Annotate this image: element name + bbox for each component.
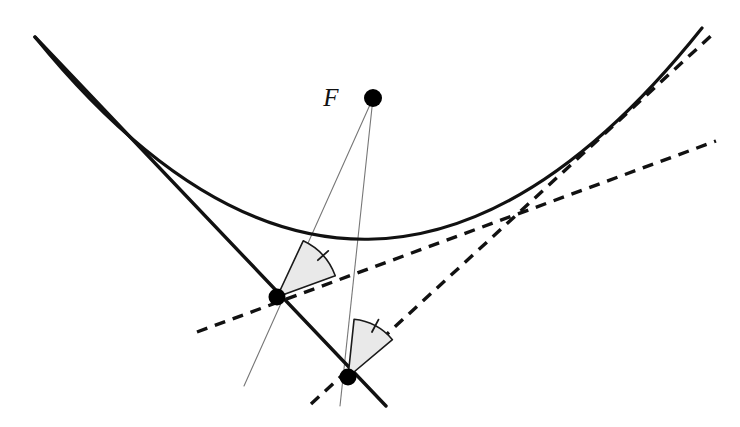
- tangency-point-upper: [269, 289, 286, 306]
- tangency-point-lower: [340, 369, 357, 386]
- parabola-reflection-diagram: F: [0, 0, 740, 427]
- canvas-background: [0, 0, 740, 427]
- focus-point: [364, 89, 382, 107]
- figure-root: F: [0, 0, 740, 427]
- focus-label: F: [322, 84, 339, 111]
